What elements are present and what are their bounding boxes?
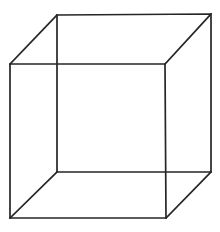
cube-drawing-canvas	[0, 0, 220, 232]
necker-cube-figure: Necker cube	[0, 0, 220, 232]
